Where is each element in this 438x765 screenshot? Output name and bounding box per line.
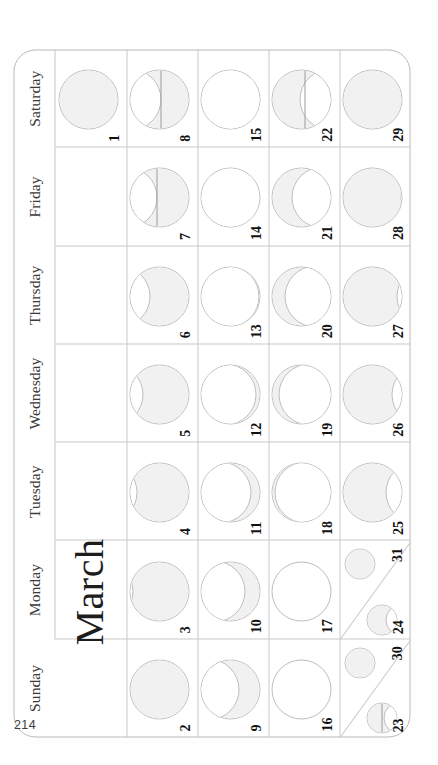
moon-terminator bbox=[156, 168, 157, 226]
moon-lit-area bbox=[342, 167, 402, 227]
moon-phase-disc bbox=[342, 462, 402, 522]
day-number: 15 bbox=[249, 127, 263, 141]
moon-phase-disc bbox=[129, 167, 189, 227]
moon-phase-disc bbox=[271, 266, 331, 326]
day-number: 3 bbox=[178, 626, 192, 633]
moon-lit-area bbox=[58, 69, 118, 129]
day-number: 19 bbox=[320, 422, 334, 436]
calendar-page: SundayMondayTuesdayWednesdayThursdayFrid… bbox=[0, 0, 438, 765]
weekday-header-saturday: Saturday bbox=[13, 49, 55, 147]
day-number: 26 bbox=[391, 422, 405, 436]
calendar-day-cell[interactable]: 25 bbox=[339, 442, 410, 540]
moon-phase-disc bbox=[200, 462, 260, 522]
day-number: 14 bbox=[249, 226, 263, 240]
calendar-day-cell[interactable]: 7 bbox=[126, 147, 197, 245]
calendar-day-cell[interactable]: 15 bbox=[197, 49, 268, 147]
weekday-label: Saturday bbox=[25, 70, 43, 126]
calendar-day-cell[interactable]: 1 bbox=[55, 49, 126, 147]
moon-phase-disc bbox=[129, 69, 189, 129]
moon-phase-disc bbox=[200, 167, 260, 227]
calendar-day-cell[interactable]: 21 bbox=[268, 147, 339, 245]
moon-phase-disc bbox=[129, 462, 189, 522]
moon-phase-disc bbox=[271, 462, 331, 522]
calendar-day-cell[interactable]: 19 bbox=[268, 344, 339, 442]
calendar-day-cell[interactable]: 2 bbox=[126, 639, 197, 737]
moon-shadow-cap bbox=[200, 266, 259, 326]
moon-phase-disc bbox=[344, 548, 375, 579]
day-number: 6 bbox=[178, 331, 192, 338]
moon-phase-disc bbox=[342, 167, 402, 227]
weekday-label: Thursday bbox=[25, 265, 43, 324]
calendar-day-cell[interactable]: 8 bbox=[126, 49, 197, 147]
moon-phase-disc bbox=[129, 561, 189, 621]
calendar-day-cell[interactable]: 11 bbox=[197, 442, 268, 540]
weekday-header-wednesday: Wednesday bbox=[13, 344, 55, 442]
calendar-day-cell[interactable]: 20 bbox=[268, 246, 339, 344]
day-number: 9 bbox=[249, 724, 263, 731]
weekday-header-tuesday: Tuesday bbox=[13, 442, 55, 540]
calendar-day-cell[interactable]: 16 bbox=[268, 639, 339, 737]
day-number: 30 bbox=[390, 646, 404, 660]
moon-phase-disc bbox=[271, 167, 331, 227]
calendar-stage: SundayMondayTuesdayWednesdayThursdayFrid… bbox=[0, 0, 438, 765]
weekday-label: Friday bbox=[25, 176, 43, 217]
page-number: 214 bbox=[14, 718, 36, 732]
calendar-day-cell[interactable]: 3 bbox=[126, 540, 197, 638]
calendar-day-cell[interactable]: 4 bbox=[126, 442, 197, 540]
day-number: 2 bbox=[178, 724, 192, 731]
weekday-header-friday: Friday bbox=[13, 147, 55, 245]
calendar-day-cell[interactable]: 17 bbox=[268, 540, 339, 638]
moon-shadow-cap bbox=[278, 364, 331, 424]
moon-phase-disc bbox=[271, 561, 331, 621]
moon-phase-disc bbox=[342, 266, 402, 326]
moon-phase-disc bbox=[129, 659, 189, 719]
moon-terminator bbox=[160, 70, 161, 128]
moon-lit-area bbox=[342, 69, 402, 129]
day-number: 20 bbox=[320, 324, 334, 338]
weekday-header-monday: Monday bbox=[13, 540, 55, 638]
day-number: 16 bbox=[320, 717, 334, 731]
moon-shadow-cap bbox=[200, 69, 260, 129]
calendar-day-cell[interactable]: 28 bbox=[339, 147, 410, 245]
calendar-day-cell[interactable]: 14 bbox=[197, 147, 268, 245]
calendar-day-cell[interactable]: 6 bbox=[126, 246, 197, 344]
calendar-day-cell[interactable]: 10 bbox=[197, 540, 268, 638]
moon-phase-disc bbox=[129, 266, 189, 326]
calendar-day-cell[interactable]: 26 bbox=[339, 344, 410, 442]
moon-lit-area bbox=[344, 548, 375, 579]
calendar-day-cell[interactable]: 27 bbox=[339, 246, 410, 344]
calendar-day-cell[interactable]: 12 bbox=[197, 344, 268, 442]
day-number: 29 bbox=[391, 127, 405, 141]
moon-lit-area bbox=[129, 561, 189, 621]
moon-lit-area bbox=[344, 647, 375, 678]
moon-phase-disc bbox=[200, 266, 260, 326]
day-number: 5 bbox=[178, 429, 192, 436]
calendar-day-cell[interactable]: 5 bbox=[126, 344, 197, 442]
moon-phase-disc bbox=[342, 69, 402, 129]
calendar-day-cell[interactable]: 9 bbox=[197, 639, 268, 737]
calendar-day-cell[interactable]: 13 bbox=[197, 246, 268, 344]
weekday-label: Monday bbox=[25, 563, 43, 615]
day-number: 1 bbox=[107, 134, 121, 141]
day-number: 11 bbox=[249, 521, 263, 534]
moon-shadow-cap bbox=[274, 462, 331, 522]
moon-shadow-cap bbox=[200, 167, 260, 227]
calendar-day-cell[interactable]: 31 bbox=[339, 540, 410, 638]
calendar-day-cell[interactable]: 29 bbox=[339, 49, 410, 147]
moon-phase-disc bbox=[58, 69, 118, 129]
calendar-day-cell[interactable]: 22 bbox=[268, 49, 339, 147]
day-number: 13 bbox=[249, 324, 263, 338]
moon-terminator bbox=[304, 70, 305, 128]
moon-phase-disc bbox=[342, 364, 402, 424]
moon-phase-disc bbox=[271, 69, 331, 129]
month-title: March bbox=[65, 538, 112, 645]
day-number: 18 bbox=[320, 520, 334, 534]
day-number: 4 bbox=[178, 527, 192, 534]
calendar-day-cell[interactable]: 18 bbox=[268, 442, 339, 540]
day-number: 7 bbox=[178, 233, 192, 240]
day-number: 27 bbox=[391, 324, 405, 338]
calendar-day-cell[interactable]: 30 bbox=[339, 639, 410, 737]
day-number: 17 bbox=[320, 619, 334, 633]
moon-phase-disc bbox=[271, 364, 331, 424]
moon-phase-disc bbox=[200, 364, 260, 424]
